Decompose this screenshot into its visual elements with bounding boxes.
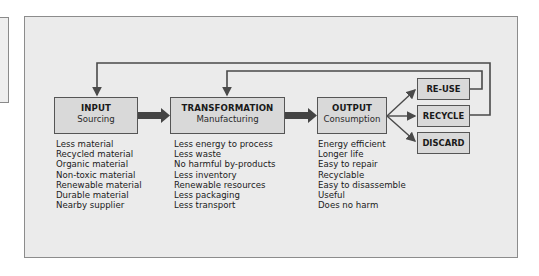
stage-input-subtitle: Sourcing	[55, 115, 137, 124]
list-item: Recycled material	[56, 149, 142, 159]
thick-arrow-input-transformation	[138, 108, 170, 123]
stage-transformation-box: TRANSFORMATION Manufacturing	[170, 97, 285, 134]
list-item: Nearby supplier	[56, 200, 142, 210]
arrow-to-reuse	[387, 90, 415, 116]
recycle-box: RECYCLE	[417, 105, 470, 127]
list-item: Does no harm	[318, 200, 406, 210]
list-item: Less energy to process	[174, 139, 276, 149]
list-item: Less inventory	[174, 170, 276, 180]
list-item: Energy efficient	[318, 139, 406, 149]
stage-output-subtitle: Consumption	[318, 115, 386, 124]
list-item: Less transport	[174, 200, 276, 210]
list-item: Less material	[56, 139, 142, 149]
list-item: Less waste	[174, 149, 276, 159]
transformation-criteria-list: Less energy to process Less waste No har…	[174, 139, 276, 210]
list-item: Durable material	[56, 190, 142, 200]
stage-input-title: INPUT	[55, 104, 137, 113]
thick-arrow-transformation-output	[285, 108, 317, 123]
list-item: Renewable material	[56, 180, 142, 190]
stage-input-box: INPUT Sourcing	[54, 97, 138, 134]
reuse-box: RE-USE	[417, 78, 470, 100]
stage-transformation-subtitle: Manufacturing	[171, 115, 284, 124]
list-item: No harmful by-products	[174, 159, 276, 169]
list-item: Organic material	[56, 159, 142, 169]
stage-output-title: OUTPUT	[318, 104, 386, 113]
list-item: Less packaging	[174, 190, 276, 200]
list-item: Easy to disassemble	[318, 180, 406, 190]
list-item: Longer life	[318, 149, 406, 159]
list-item: Useful	[318, 190, 406, 200]
stage-output-box: OUTPUT Consumption	[317, 97, 387, 134]
list-item: Renewable resources	[174, 180, 276, 190]
list-item: Easy to repair	[318, 159, 406, 169]
list-item: Non-toxic material	[56, 170, 142, 180]
stage-transformation-title: TRANSFORMATION	[171, 104, 284, 113]
output-criteria-list: Energy efficient Longer life Easy to rep…	[318, 139, 406, 210]
arrow-to-discard	[387, 116, 415, 141]
input-criteria-list: Less material Recycled material Organic …	[56, 139, 142, 210]
list-item: Recyclable	[318, 170, 406, 180]
discard-box: DISCARD	[417, 132, 470, 154]
